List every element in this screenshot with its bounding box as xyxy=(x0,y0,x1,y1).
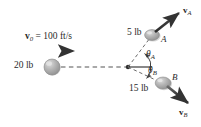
incoming-sphere xyxy=(44,59,61,76)
sphere-a-name-label: A xyxy=(161,35,167,44)
velocity-b-subscript: B xyxy=(184,111,188,118)
angle-a-label: θA xyxy=(146,50,155,61)
angle-b-label: θB xyxy=(148,66,157,77)
initial-velocity-label: v0 = 100 ft/s xyxy=(25,32,72,43)
sphere-b-weight-label: 15 lb xyxy=(129,84,148,94)
angle-a-subscript: A xyxy=(151,53,155,60)
velocity-b-arrow xyxy=(167,86,188,103)
velocity-a-arrow xyxy=(155,13,179,32)
velocity-a-label: vA xyxy=(183,6,191,16)
angle-b-subscript: B xyxy=(153,69,157,76)
sphere-a-weight-label: 5 lb xyxy=(127,28,142,38)
incoming-weight-label: 20 lb xyxy=(14,61,33,71)
sphere-b-name-label: B xyxy=(172,73,178,82)
impact-diagram: v0 = 100 ft/s 20 lb 5 lb 15 lb A B vA vB… xyxy=(0,0,201,127)
sphere-a xyxy=(145,30,161,42)
velocity-b-label: vB xyxy=(179,108,187,118)
velocity-a-subscript: A xyxy=(188,9,192,16)
initial-velocity-value: = 100 ft/s xyxy=(33,31,72,41)
